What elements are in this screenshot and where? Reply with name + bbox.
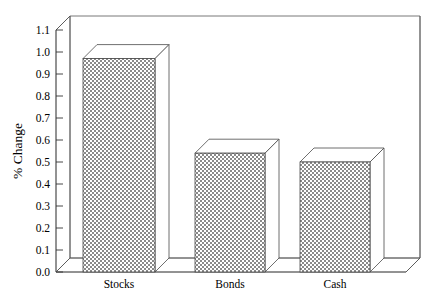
bar-top-cash <box>300 148 384 162</box>
bar-group-cash <box>300 148 384 272</box>
y-tick-label-1: 0.1 <box>36 244 51 256</box>
y-tick-label-4: 0.4 <box>36 178 51 190</box>
bar-top-bonds <box>195 139 279 153</box>
bar-chart-figure: 0.0 0.1 0.2 0.3 0.4 0.5 0.6 0.7 0.8 0.9 … <box>0 0 440 301</box>
y-tick-label-10: 1.0 <box>36 46 51 58</box>
y-tick-label-8: 0.8 <box>36 90 51 102</box>
y-tick-label-0: 0.0 <box>36 266 51 278</box>
y-tick-label-7: 0.7 <box>36 112 51 124</box>
bar-front-bonds <box>195 153 265 272</box>
chart-canvas: 0.0 0.1 0.2 0.3 0.4 0.5 0.6 0.7 0.8 0.9 … <box>0 0 440 301</box>
y-tick-label-3: 0.3 <box>36 200 51 212</box>
y-tick-label-5: 0.5 <box>36 156 51 168</box>
x-axis-category-labels: Stocks Bonds Cash <box>104 278 347 290</box>
frame-top-depth-edge <box>56 16 70 30</box>
y-axis-ticks <box>56 30 63 272</box>
y-tick-label-2: 0.2 <box>36 222 51 234</box>
bar-group-bonds <box>195 139 279 272</box>
bar-group-stocks <box>83 45 169 272</box>
y-tick-label-6: 0.6 <box>36 134 51 146</box>
bar-side-bonds <box>265 139 279 272</box>
y-axis-tick-labels: 0.0 0.1 0.2 0.3 0.4 0.5 0.6 0.7 0.8 0.9 … <box>36 24 51 278</box>
x-label-cash: Cash <box>324 278 347 290</box>
bar-side-cash <box>370 148 384 272</box>
frame-left-wall <box>56 16 70 272</box>
bar-front-cash <box>300 162 370 272</box>
bar-side-stocks <box>155 45 169 272</box>
bar-front-stocks <box>83 59 155 272</box>
x-label-stocks: Stocks <box>104 278 135 290</box>
frame-right-depth-edge <box>406 258 420 272</box>
y-tick-label-9: 0.9 <box>36 68 51 80</box>
bar-top-stocks <box>83 45 169 59</box>
x-label-bonds: Bonds <box>215 278 245 290</box>
y-tick-label-11: 1.1 <box>36 24 51 36</box>
y-axis-title: % Change <box>10 123 25 179</box>
